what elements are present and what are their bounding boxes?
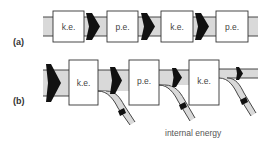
panel-b: k.e. p.e. k.e. (b) internal energy [13, 60, 258, 138]
box-label: k.e. [77, 78, 91, 88]
panel-b-label: (b) [13, 96, 25, 106]
box-label: p.e. [137, 76, 151, 86]
internal-energy-label: internal energy [165, 128, 222, 138]
branch-pipe-3 [219, 78, 256, 116]
box-pe-b1: p.e. [129, 60, 159, 105]
box-pe-1: p.e. [107, 11, 138, 42]
box-ke-b2: k.e. [189, 60, 219, 105]
box-ke-b1: k.e. [69, 60, 98, 105]
box-label: k.e. [62, 22, 76, 32]
box-pe-2: p.e. [216, 11, 248, 42]
box-label: k.e. [197, 76, 211, 86]
box-label: p.e. [115, 22, 129, 32]
panel-a: k.e. p.e. k.e. p.e. (a) [13, 11, 258, 47]
box-ke-1: k.e. [53, 11, 84, 42]
energy-transfer-diagram: k.e. p.e. k.e. p.e. (a) [0, 0, 273, 146]
panel-a-label: (a) [13, 37, 24, 47]
box-ke-2: k.e. [161, 11, 193, 42]
box-label: k.e. [170, 22, 184, 32]
box-label: p.e. [225, 22, 239, 32]
